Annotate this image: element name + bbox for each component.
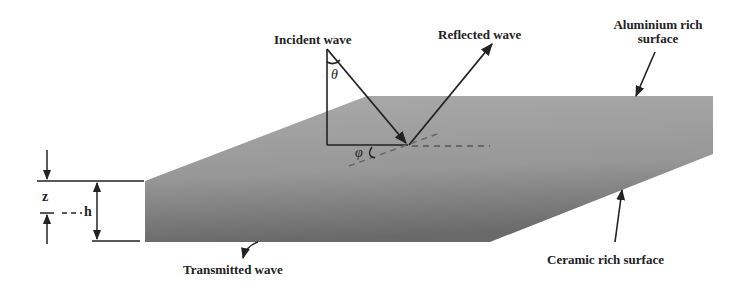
aluminium-label-line1: Aluminium rich (596, 18, 720, 32)
thickness-dimension (37, 150, 144, 244)
z-symbol: z (42, 190, 48, 204)
reflected-wave-label: Reflected wave (438, 28, 521, 42)
h-symbol: h (84, 205, 92, 219)
ceramic-pointer-arrow (615, 190, 622, 242)
aluminium-label-line2: surface (596, 32, 720, 46)
transmitted-wave-label: Transmitted wave (183, 263, 283, 277)
phi-symbol: φ (355, 146, 363, 160)
incident-wave-label: Incident wave (274, 33, 352, 47)
ceramic-surface-label: Ceramic rich surface (547, 253, 664, 267)
fgm-plate (145, 96, 713, 242)
transmitted-pointer-arrow (243, 242, 258, 258)
aluminium-surface-label: Aluminium rich surface (596, 18, 720, 46)
theta-symbol: θ (331, 68, 338, 82)
aluminium-pointer-arrow (636, 52, 655, 96)
